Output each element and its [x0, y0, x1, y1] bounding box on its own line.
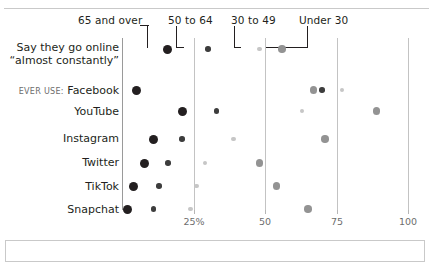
data-point [129, 182, 138, 191]
data-point [214, 108, 220, 114]
row-label-line1: YouTube [74, 105, 119, 118]
data-point [179, 136, 185, 142]
data-point [321, 135, 329, 143]
data-point [140, 159, 149, 168]
tickmark-75 [337, 210, 338, 214]
data-point [165, 160, 171, 166]
row-label-youtube: YouTube [74, 105, 119, 118]
footnote-box [5, 240, 425, 262]
legend-label-under-30: Under 30 [299, 14, 348, 26]
data-point [300, 109, 305, 114]
tickmark-50 [265, 210, 266, 214]
row-label-facebook: EVER USE: Facebook [19, 84, 119, 98]
data-point [373, 107, 381, 115]
data-point [319, 87, 325, 93]
row-label-line1: Say they go online [16, 41, 119, 54]
data-point [178, 107, 187, 116]
data-point [163, 45, 172, 54]
data-point [273, 182, 281, 190]
row-label-tiktok: TikTok [85, 180, 119, 193]
data-point [156, 183, 162, 189]
data-point [151, 206, 157, 212]
row-label-line1: Instagram [63, 132, 119, 145]
gridline-0 [122, 38, 123, 210]
data-point [194, 184, 199, 189]
leader-line-65-and-over-horizontal [140, 25, 149, 27]
row-label-instagram: Instagram [63, 132, 119, 145]
leader-line-65-and-over-vertical [147, 26, 149, 48]
row-label-line1: Snapchat [67, 203, 119, 216]
row-label-line2: “almost constantly” [9, 54, 119, 67]
row-label-line1: Twitter [82, 156, 119, 169]
leader-line-under-30-horizontal [265, 47, 308, 49]
row-label-line1: Facebook [67, 84, 119, 97]
leader-line-30-to-49-vertical [234, 26, 236, 48]
leader-line-under-30-vertical [307, 26, 309, 48]
legend-label-30-to-49: 30 to 49 [231, 14, 276, 26]
tick-label-100: 100 [399, 216, 417, 227]
gridline-50 [265, 38, 266, 210]
leader-line-30-to-49-horizontal [234, 47, 241, 49]
data-point [149, 135, 158, 144]
tick-label-50: 50 [259, 216, 271, 227]
legend-label-50-to-64: 50 to 64 [168, 14, 213, 26]
ever-use-prefix: EVER USE: [19, 87, 64, 96]
leader-line-50-to-64-vertical [176, 26, 178, 48]
data-point [257, 47, 262, 52]
data-point [205, 46, 211, 52]
data-point [231, 137, 236, 142]
leader-line-50-to-64-horizontal [176, 47, 184, 49]
tickmark-100 [408, 210, 409, 214]
row-label-snapchat: Snapchat [67, 203, 119, 216]
row-label-line1: TikTok [85, 180, 119, 193]
gridline-75 [337, 38, 338, 210]
data-point [203, 161, 208, 166]
tick-label-25: 25% [183, 216, 204, 227]
row-label-online-almost-constantly: Say they go online “almost constantly” [9, 41, 119, 67]
data-point [132, 86, 141, 95]
tick-label-75: 75 [331, 216, 343, 227]
data-point [310, 86, 318, 94]
data-point [278, 45, 286, 53]
data-point [188, 207, 193, 212]
data-point [123, 205, 132, 214]
gridline-100 [408, 38, 409, 210]
legend-label-65-and-over: 65 and over [78, 14, 142, 26]
data-point [304, 205, 312, 213]
row-label-twitter: Twitter [82, 156, 119, 169]
tickmark-25 [194, 210, 195, 214]
data-point [256, 159, 264, 167]
data-point [340, 88, 345, 93]
